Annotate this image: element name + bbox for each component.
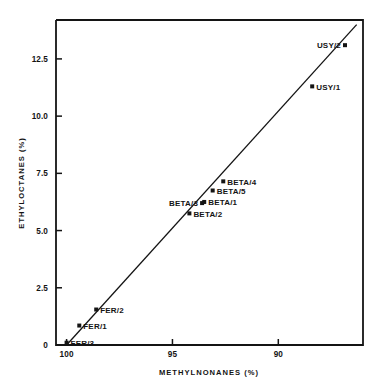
scatter-plot-figure: 1009590 02.55.07.510.012.5 FER/3FER/1FER…	[0, 0, 384, 388]
point-label: USY/2	[317, 41, 341, 50]
point-label: BETA/2	[193, 210, 222, 219]
x-tick-label: 90	[274, 350, 284, 359]
data-point: USY/1	[310, 83, 340, 92]
x-axis-title: METHYLNONANES (%)	[159, 368, 259, 377]
point-marker	[211, 189, 215, 193]
chart-canvas: 1009590 02.55.07.510.012.5 FER/3FER/1FER…	[0, 0, 384, 388]
data-point: BETA/1	[202, 198, 237, 207]
correlation-line	[67, 25, 357, 345]
point-label: FER/3	[71, 339, 95, 348]
point-label: USY/1	[316, 83, 340, 92]
y-tick-label: 2.5	[36, 284, 48, 293]
y-tick-label: 7.5	[36, 169, 48, 178]
point-label: BETA/1	[208, 198, 237, 207]
data-point: BETA/4	[221, 178, 256, 187]
point-marker	[65, 341, 69, 345]
point-marker	[310, 84, 314, 88]
point-marker	[221, 179, 225, 183]
trend-line-group	[67, 25, 357, 345]
y-axis-title: ETHYLOCTANES (%)	[17, 137, 26, 228]
data-point: BETA/2	[187, 210, 222, 219]
point-label: FER/2	[100, 306, 124, 315]
point-marker	[94, 308, 98, 312]
y-tick-label: 0	[43, 341, 48, 350]
point-marker	[77, 324, 81, 328]
point-marker	[202, 200, 206, 204]
data-point: FER/3	[65, 339, 95, 348]
point-label: FER/1	[83, 322, 107, 331]
y-tick-label: 10.0	[32, 112, 49, 121]
point-label: BETA/5	[217, 187, 246, 196]
data-point: FER/1	[77, 322, 107, 331]
y-axis-ticks: 02.55.07.510.012.5	[32, 55, 62, 350]
y-tick-label: 5.0	[36, 227, 48, 236]
point-marker	[343, 43, 347, 47]
data-point: USY/2	[317, 41, 347, 50]
data-points-group: FER/3FER/1FER/2BETA/2BETA/3BETA/1BETA/5B…	[65, 41, 347, 348]
x-tick-label: 95	[168, 350, 178, 359]
data-point: BETA/5	[211, 187, 246, 196]
data-point: BETA/3	[169, 199, 204, 208]
point-label: BETA/4	[227, 178, 256, 187]
y-tick-label: 12.5	[32, 55, 49, 64]
point-label: BETA/3	[169, 199, 198, 208]
x-tick-label: 100	[60, 350, 74, 359]
point-marker	[187, 211, 191, 215]
